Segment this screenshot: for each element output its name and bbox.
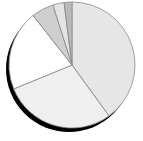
pie-slices xyxy=(9,2,135,128)
pie-chart xyxy=(0,0,143,141)
